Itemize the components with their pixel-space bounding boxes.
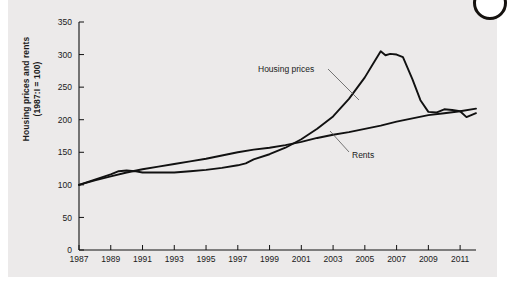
y-tick-label: 200 — [58, 115, 72, 125]
x-tick-label: 1993 — [165, 254, 184, 264]
leader-line-housing-prices — [328, 69, 359, 100]
x-tick-label: 2005 — [355, 254, 374, 264]
y-tick-label: 150 — [58, 147, 72, 157]
x-tick-label: 2007 — [387, 254, 406, 264]
x-tick-label: 1999 — [260, 254, 279, 264]
y-tick-label: 50 — [63, 213, 73, 223]
x-tick-label: 1991 — [133, 254, 152, 264]
x-tick-label: 2003 — [324, 254, 343, 264]
leader-line-group — [328, 69, 359, 152]
x-tick-label: 2009 — [419, 254, 438, 264]
y-tick-label: 350 — [58, 17, 72, 27]
x-tick-group: 1987198919911993199519971999200120032005… — [70, 245, 470, 264]
y-tick-group: 050100150200250300350 — [58, 17, 84, 255]
y-tick-label: 300 — [58, 50, 72, 60]
x-tick-label: 1989 — [101, 254, 120, 264]
y-tick-label: 250 — [58, 82, 72, 92]
x-tick-label: 2001 — [292, 254, 311, 264]
series-line-rents — [79, 109, 476, 185]
x-tick-label: 2011 — [451, 254, 470, 264]
series-group — [79, 51, 476, 185]
x-tick-label: 1987 — [70, 254, 89, 264]
axes-group — [79, 22, 476, 250]
x-tick-label: 1997 — [228, 254, 247, 264]
y-tick-label: 100 — [58, 180, 72, 190]
x-tick-label: 1995 — [197, 254, 216, 264]
